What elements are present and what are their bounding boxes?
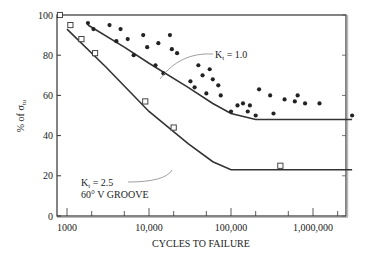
x-tick-label: 100,000	[215, 222, 248, 233]
open-square-data-point	[92, 51, 97, 56]
groove-annotation: 60° V GROOVE	[81, 189, 149, 200]
fit-curves	[67, 25, 352, 170]
y-tick-label: 0	[48, 211, 53, 222]
open-square-data-point	[68, 22, 73, 27]
kt25-curve	[67, 29, 352, 170]
y-tick-label: 80	[43, 50, 53, 61]
filled-data-point	[141, 33, 145, 37]
filled-data-point	[91, 27, 95, 31]
open-square-data-point	[278, 163, 283, 168]
y-tick-label: 60	[43, 90, 53, 101]
x-tick-label: 1,000,000	[293, 222, 333, 233]
y-tick-label: 20	[43, 170, 53, 181]
filled-data-point	[296, 93, 300, 97]
filled-data-point	[196, 63, 200, 67]
open-square-data-point	[79, 37, 84, 42]
filled-data-point	[193, 85, 197, 89]
filled-data-point	[168, 33, 172, 37]
filled-data-point	[126, 37, 130, 41]
filled-data-point	[118, 27, 122, 31]
filled-data-point	[188, 79, 192, 83]
filled-data-point	[219, 93, 223, 97]
kt25-leader-line	[128, 170, 172, 182]
filled-data-point	[268, 93, 272, 97]
filled-data-point	[107, 23, 111, 27]
filled-data-point	[204, 91, 208, 95]
filled-data-point	[282, 97, 286, 101]
filled-data-point	[200, 73, 204, 77]
filled-data-point	[156, 41, 160, 45]
y-tick-label: 40	[43, 130, 53, 141]
filled-data-point	[216, 83, 220, 87]
filled-data-point	[145, 45, 149, 49]
x-tick-label: 1000	[57, 222, 77, 233]
filled-data-point	[208, 67, 212, 71]
filled-data-point	[257, 87, 261, 91]
x-axis-ticks: 100010,000100,0001,000,000	[57, 208, 338, 233]
filled-data-point	[350, 113, 354, 117]
y-axis-title: % of σtu	[15, 99, 28, 132]
filled-data-point	[235, 103, 239, 107]
filled-data-point	[241, 101, 245, 105]
filled-data-point	[248, 103, 252, 107]
x-tick-label: 10,000	[135, 222, 163, 233]
x-axis-title: CYCLES TO FAILURE	[152, 238, 250, 249]
fatigue-sn-chart: 020406080100 100010,000100,0001,000,000 …	[0, 0, 368, 264]
open-square-data-point	[57, 12, 62, 17]
filled-data-point	[132, 53, 136, 57]
y-tick-label: 100	[38, 10, 53, 21]
filled-data-point	[170, 47, 174, 51]
filled-data-point	[246, 109, 250, 113]
filled-data-point	[153, 63, 157, 67]
open-square-data-point	[171, 125, 176, 130]
filled-data-point	[229, 109, 233, 113]
filled-data-point	[317, 101, 321, 105]
open-square-data-point	[143, 99, 148, 104]
filled-data-point	[86, 21, 90, 25]
filled-data-point	[114, 39, 118, 43]
filled-data-point	[303, 101, 307, 105]
filled-data-point	[271, 111, 275, 115]
kt10-annotation: Kt = 1.0	[215, 49, 247, 62]
data-points	[57, 12, 354, 168]
filled-data-point	[211, 77, 215, 81]
filled-data-point	[293, 99, 297, 103]
filled-data-point	[254, 113, 258, 117]
filled-data-point	[175, 51, 179, 55]
